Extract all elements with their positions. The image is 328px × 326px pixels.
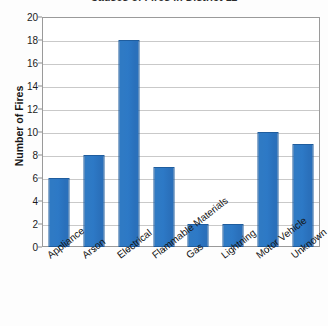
gridline — [43, 225, 319, 226]
y-tick-mark — [38, 86, 42, 87]
y-tick-label: 4 — [8, 196, 38, 207]
y-tick-mark — [38, 178, 42, 179]
y-tick-mark — [38, 224, 42, 225]
y-tick-mark — [38, 109, 42, 110]
gridline — [43, 179, 319, 180]
gridline — [43, 64, 319, 65]
gridline — [43, 133, 319, 134]
y-tick-mark — [38, 247, 42, 248]
y-tick-label: 2 — [8, 219, 38, 230]
y-tick-label: 0 — [8, 242, 38, 253]
chart-title: Causes of Fires in District 12 — [0, 0, 328, 3]
bar-chart-figure: Causes of Fires in District 12 Number of… — [0, 0, 328, 326]
y-tick-mark — [38, 40, 42, 41]
gridline — [43, 202, 319, 203]
y-tick-mark — [38, 155, 42, 156]
y-tick-label: 14 — [8, 81, 38, 92]
y-tick-mark — [38, 63, 42, 64]
y-tick-label: 12 — [8, 104, 38, 115]
gridline — [43, 156, 319, 157]
gridline — [43, 41, 319, 42]
y-tick-label: 8 — [8, 150, 38, 161]
y-tick-mark — [38, 17, 42, 18]
y-tick-mark — [38, 132, 42, 133]
gridline — [43, 110, 319, 111]
y-tick-mark — [38, 201, 42, 202]
y-tick-label: 20 — [8, 12, 38, 23]
y-tick-label: 10 — [8, 127, 38, 138]
y-tick-label: 16 — [8, 58, 38, 69]
y-tick-label: 18 — [8, 35, 38, 46]
gridline — [43, 87, 319, 88]
y-tick-label: 6 — [8, 173, 38, 184]
plot-area — [42, 17, 320, 247]
